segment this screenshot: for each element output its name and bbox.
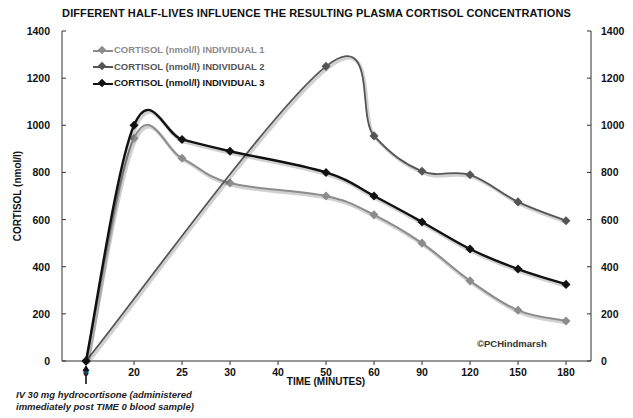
x-tick-label: 120 (461, 366, 479, 378)
secondary-y-tick-label: 600 (601, 214, 619, 226)
series-individual-3 (81, 110, 570, 366)
legend: CORTISOL (nmol/l) INDIVIDUAL 1 CORTISOL … (93, 42, 265, 92)
data-point (561, 216, 570, 225)
series-individual-2 (81, 56, 570, 365)
y-tick-label: 400 (32, 261, 50, 273)
y-tick-label: 1400 (27, 25, 51, 37)
secondary-y-tick-label: 200 (601, 308, 619, 320)
secondary-y-tick-label: 1000 (601, 119, 625, 131)
legend-label: CORTISOL (nmol/l) INDIVIDUAL 1 (114, 42, 265, 59)
legend-label: CORTISOL (nmol/l) INDIVIDUAL 3 (114, 75, 265, 92)
y-tick-label: 800 (32, 166, 50, 178)
legend-item-individual-1: CORTISOL (nmol/l) INDIVIDUAL 1 (93, 42, 265, 59)
series-lines (81, 56, 570, 365)
dose-annotation-line-1: IV 30 mg hydrocortisone (administered (16, 389, 194, 401)
secondary-y-tick-label: 0 (601, 355, 607, 367)
secondary-y-tick-label: 1200 (601, 72, 625, 84)
data-point (561, 316, 570, 325)
x-tick-label: 40 (272, 366, 284, 378)
y-tick-label: 200 (32, 308, 50, 320)
y-tick-label: 600 (32, 214, 50, 226)
x-tick-label: 180 (557, 366, 575, 378)
copyright-text: ©PCHindmarsh (477, 338, 547, 349)
legend-item-individual-2: CORTISOL (nmol/l) INDIVIDUAL 2 (93, 59, 265, 76)
diamond-marker-icon (93, 79, 113, 87)
y-tick-label: 0 (44, 355, 50, 367)
diamond-marker-icon (93, 63, 113, 71)
y-tick-label: 1200 (27, 72, 51, 84)
x-axis-label: TIME (MINUTES) (287, 376, 365, 387)
y-axis-label: CORTISOL (nmol/l) (12, 151, 23, 241)
dose-annotation-line-2: immediately post TIME 0 blood sample) (16, 401, 194, 413)
x-tick-label: 25 (176, 366, 188, 378)
y-tick-label: 1000 (27, 119, 51, 131)
secondary-y-tick-label: 800 (601, 166, 619, 178)
data-point (561, 280, 570, 289)
x-tick-label: 30 (224, 366, 236, 378)
x-tick-label: 90 (416, 366, 428, 378)
diamond-marker-icon (93, 46, 113, 54)
x-tick-label: 60 (368, 366, 380, 378)
x-tick-label: 150 (509, 366, 527, 378)
secondary-y-tick-label: 400 (601, 261, 619, 273)
x-tick-label: 20 (128, 366, 140, 378)
dose-annotation: IV 30 mg hydrocortisone (administered im… (16, 389, 194, 412)
legend-label: CORTISOL (nmol/l) INDIVIDUAL 2 (114, 59, 265, 76)
secondary-y-tick-label: 1400 (601, 25, 625, 37)
series-individual-1 (81, 125, 570, 366)
legend-item-individual-3: CORTISOL (nmol/l) INDIVIDUAL 3 (93, 75, 265, 92)
